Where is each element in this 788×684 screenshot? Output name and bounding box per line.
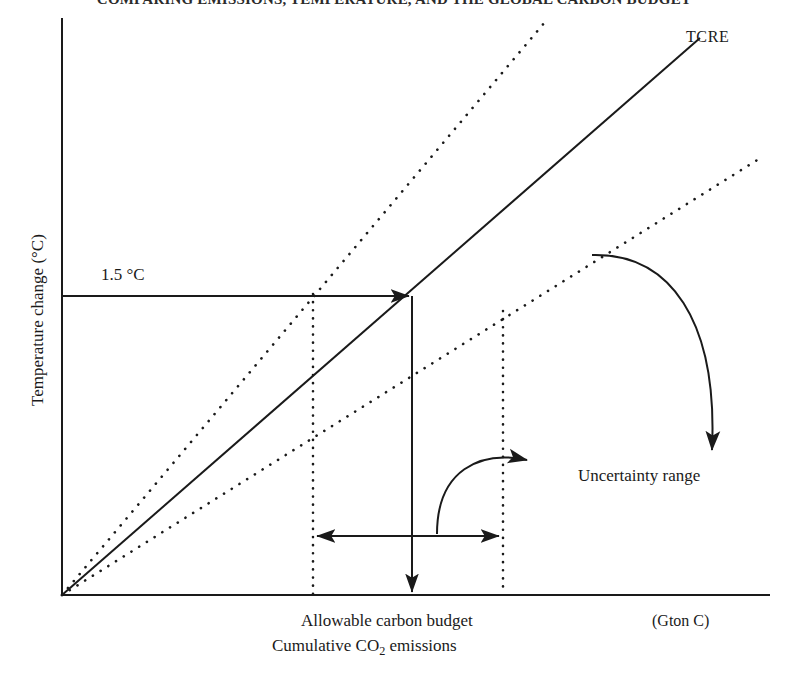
cumulative-emissions-pre: Cumulative CO: [272, 636, 379, 655]
degree-symbol-icon: °: [28, 251, 47, 258]
threshold-label: 1.5 °C: [101, 266, 145, 285]
x-axis-units-label: (Gton C): [652, 612, 709, 630]
cumulative-emissions-post: emissions: [385, 636, 456, 655]
tcre-label-text: TCRE: [686, 28, 729, 45]
uncertainty-range-label: Uncertainty range: [578, 467, 700, 486]
y-axis-title-tail: C): [28, 234, 47, 251]
upper-uncertainty-dotted-line: [62, 22, 545, 595]
allowable-budget-caption: Allowable carbon budget: [301, 612, 473, 631]
tcre-schematic-chart: [0, 0, 788, 684]
tcre-label: TCRE: [686, 28, 729, 46]
uncertainty-callout-inner-arrow: [437, 458, 527, 534]
y-axis-title: Temperature change (°C): [28, 190, 48, 450]
cumulative-emissions-caption: Cumulative CO2 emissions: [272, 637, 457, 656]
y-axis-title-main: Temperature change (: [28, 258, 47, 406]
axis-group: [62, 18, 770, 595]
uncertainty-callout-outer-arrow: [592, 255, 713, 450]
uncertainty-range-label-text: Uncertainty range: [578, 466, 700, 485]
figure-root: COMPARING EMISSIONS, TEMPERATURE, AND TH…: [0, 0, 788, 684]
tcre-line: [62, 38, 700, 595]
allowable-budget-caption-text: Allowable carbon budget: [301, 611, 473, 630]
x-axis-units-text: (Gton C): [652, 612, 709, 629]
threshold-label-text: 1.5 °C: [101, 265, 145, 284]
